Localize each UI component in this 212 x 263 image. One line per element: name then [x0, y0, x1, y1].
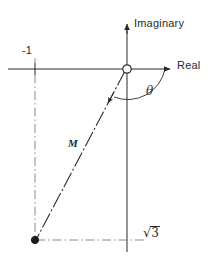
angle-arc: [114, 69, 165, 100]
sqrt-radicand: 3: [150, 226, 160, 239]
phasor-diagram-svg: [0, 0, 212, 263]
origin-marker: [123, 65, 131, 73]
magnitude-label-m: M: [68, 138, 78, 149]
phasor-point-marker: [31, 236, 38, 243]
magnitude-vector-arrow: [108, 92, 114, 103]
imaginary-tick-label-sqrt3: √3: [143, 226, 160, 239]
sqrt-expression: √3: [143, 226, 160, 239]
real-tick-label-minus-one: -1: [22, 45, 32, 56]
angle-label-theta: θ: [146, 85, 153, 97]
real-axis-label: Real: [177, 60, 200, 71]
imaginary-axis-label: Imaginary: [134, 18, 184, 29]
complex-plane-figure: Imaginary Real -1 θ M √3: [0, 0, 212, 263]
